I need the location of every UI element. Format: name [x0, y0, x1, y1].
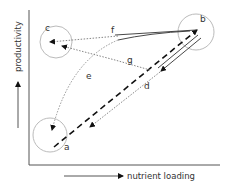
path-label-d: d — [144, 81, 150, 91]
state-circle-a — [33, 118, 67, 152]
path-label-e: e — [86, 71, 92, 81]
path-a-to-b-dashed — [54, 30, 197, 147]
path-g-dotted — [62, 46, 150, 70]
path-b-solid-1 — [158, 35, 198, 68]
state-circle-b — [178, 14, 214, 50]
path-f-dotted — [50, 36, 118, 42]
diagram-canvas: productivity nutrient loading c b a f g … — [0, 0, 233, 187]
state-label-b: b — [200, 14, 206, 24]
state-label-a: a — [64, 142, 70, 152]
x-axis-label: nutrient loading — [127, 171, 195, 181]
path-label-g: g — [127, 55, 133, 65]
y-axis-label: productivity — [13, 21, 23, 72]
state-label-c: c — [45, 23, 50, 33]
path-e-dotted-curve — [52, 40, 118, 130]
path-label-f: f — [111, 25, 115, 35]
